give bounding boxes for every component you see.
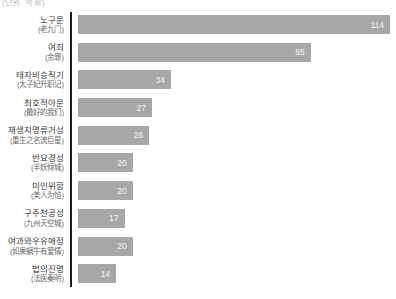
value-label: 20	[117, 241, 132, 251]
category-label: 여과와우유애정 (如果蜗牛有爱情)	[0, 237, 70, 256]
bar-row: 반요경성 (半妖倾城) 20	[0, 153, 396, 181]
bar-track: 85	[78, 43, 396, 62]
category-label-korean: 여과와우유애정	[0, 236, 64, 247]
bar-track: 14	[78, 264, 396, 283]
category-label-chinese: (最好的我们)	[0, 108, 64, 118]
value-label: 26	[134, 130, 149, 140]
bar-track: 114	[78, 15, 396, 34]
bar-chart: (단위: 억 회) 노구문 (老九门) 114 여죄 (余罪) 85 태자비승직…	[0, 0, 396, 299]
bar-track: 20	[78, 237, 396, 256]
bar-row: 구주천공성 (九州天空城) 17	[0, 209, 396, 237]
category-label-chinese: (重生之名流巨星)	[0, 136, 64, 146]
bar-row: 최호적아문 (最好的我们) 27	[0, 98, 396, 126]
value-label: 17	[109, 213, 124, 223]
value-label: 20	[117, 186, 132, 196]
value-label: 14	[101, 269, 116, 279]
value-label: 114	[370, 20, 390, 30]
category-label: 노구문 (老九门)	[0, 15, 70, 34]
bar-track: 20	[78, 181, 396, 200]
bar-row: 태자비승직기 (太子妃升职记) 34	[0, 70, 396, 98]
category-label-korean: 노구문	[0, 15, 64, 26]
bar-track: 27	[78, 98, 396, 117]
bar: 20	[78, 153, 133, 172]
bar-track: 17	[78, 209, 396, 228]
category-label: 여죄 (余罪)	[0, 43, 70, 62]
bar-track: 34	[78, 70, 396, 89]
category-label: 반요경성 (半妖倾城)	[0, 153, 70, 172]
category-label: 태자비승직기 (太子妃升职记)	[0, 70, 70, 89]
category-label: 재생지명류거성 (重生之名流巨星)	[0, 126, 70, 145]
category-label: 미인위함 (美人为馅)	[0, 181, 70, 200]
bar-track: 26	[78, 126, 396, 145]
bar-rows: 노구문 (老九门) 114 여죄 (余罪) 85 태자비승직기 (太子妃升职记)…	[0, 15, 396, 292]
bar: 27	[78, 98, 152, 117]
category-label-chinese: (美人为馅)	[0, 191, 64, 201]
value-label: 85	[295, 47, 310, 57]
bar: 20	[78, 181, 133, 200]
category-label: 법의진명 (法医秦明)	[0, 264, 70, 283]
bar: 26	[78, 126, 149, 145]
category-label-chinese: (余罪)	[0, 53, 64, 63]
category-label-korean: 법의진명	[0, 264, 64, 275]
category-label-chinese: (如果蜗牛有爱情)	[0, 247, 64, 257]
bar: 85	[78, 43, 311, 62]
unit-note: (단위: 억 회)	[2, 0, 45, 7]
category-label-chinese: (老九门)	[0, 25, 64, 35]
category-label-korean: 미인위함	[0, 181, 64, 192]
category-label-korean: 재생지명류거성	[0, 125, 64, 136]
category-label-korean: 반요경성	[0, 153, 64, 164]
value-label: 34	[156, 75, 171, 85]
bar-row: 법의진명 (法医秦明) 14	[0, 264, 396, 292]
bar: 14	[78, 264, 116, 283]
bar: 20	[78, 237, 133, 256]
bar-track: 20	[78, 153, 396, 172]
bar-row: 여과와우유애정 (如果蜗牛有爱情) 20	[0, 237, 396, 265]
bar-row: 미인위함 (美人为馅) 20	[0, 181, 396, 209]
value-label: 20	[117, 158, 132, 168]
bar: 114	[78, 15, 390, 34]
value-label: 27	[136, 103, 151, 113]
category-label-chinese: (九州天空城)	[0, 219, 64, 229]
category-label-chinese: (半妖倾城)	[0, 163, 64, 173]
category-label-chinese: (太子妃升职记)	[0, 80, 64, 90]
bar-row: 재생지명류거성 (重生之名流巨星) 26	[0, 126, 396, 154]
category-label: 최호적아문 (最好的我们)	[0, 98, 70, 117]
category-label: 구주천공성 (九州天空城)	[0, 209, 70, 228]
bar: 17	[78, 209, 125, 228]
category-label-korean: 최호적아문	[0, 98, 64, 109]
category-label-korean: 태자비승직기	[0, 70, 64, 81]
bar: 34	[78, 70, 171, 89]
category-label-korean: 여죄	[0, 42, 64, 53]
category-label-chinese: (法医秦明)	[0, 274, 64, 284]
bar-row: 노구문 (老九门) 114	[0, 15, 396, 43]
category-label-korean: 구주천공성	[0, 208, 64, 219]
bar-row: 여죄 (余罪) 85	[0, 43, 396, 71]
